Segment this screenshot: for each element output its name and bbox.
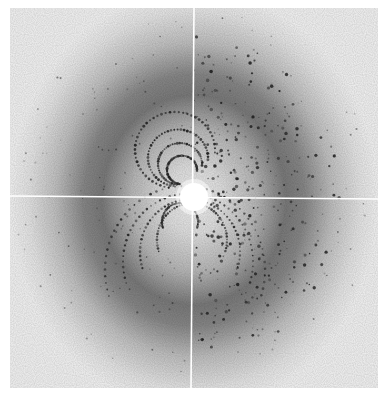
beam-stop-core xyxy=(180,183,208,211)
diffraction-pattern xyxy=(0,0,388,396)
diffraction-image xyxy=(0,0,388,396)
